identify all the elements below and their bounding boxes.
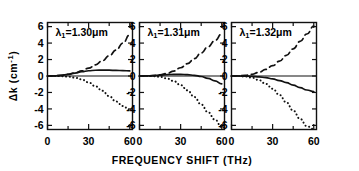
y-axis-label-text: Δk (cm-1) xyxy=(6,51,19,102)
x-tick-label: 0 xyxy=(45,135,51,147)
y-label-main: Δk (cm xyxy=(7,63,19,102)
panel-3: 6420-2-4-603060λ1=1.32μm xyxy=(218,20,320,146)
x-axis-label: FREQUENCY SHIFT (THz) xyxy=(112,154,253,166)
y-tick-label: 2 xyxy=(222,53,228,65)
y-tick-label: -2 xyxy=(126,86,135,98)
plot-canvas: 6420-2-4-603060λ1=1.30μm6420-2-4-603060λ… xyxy=(0,0,359,171)
y-tick-label: 4 xyxy=(38,37,44,49)
y-tick-label: 0 xyxy=(222,70,228,82)
y-tick-label: 6 xyxy=(38,20,44,32)
y-tick-label: -4 xyxy=(126,103,135,115)
x-tick-label: 60 xyxy=(124,135,136,147)
series-dashed xyxy=(140,34,222,76)
y-tick-label: -4 xyxy=(218,103,227,115)
y-tick-label: 6 xyxy=(130,20,136,32)
y-tick-label: 6 xyxy=(222,20,228,32)
y-tick-label: -2 xyxy=(34,86,43,98)
y-tick-label: 0 xyxy=(130,70,136,82)
x-tick-label: 30 xyxy=(267,135,279,147)
y-tick-label: 4 xyxy=(130,37,136,49)
y-tick-label: -6 xyxy=(126,119,135,131)
x-tick-label: 0 xyxy=(137,135,143,147)
panel-annotation: λ1=1.32μm xyxy=(240,26,292,41)
panel-1: 6420-2-4-603060λ1=1.30μm xyxy=(34,20,136,146)
y-tick-label: 4 xyxy=(222,37,228,49)
series-dotted xyxy=(48,76,130,110)
x-tick-label: 60 xyxy=(216,135,228,147)
panel-annotation: λ1=1.30μm xyxy=(56,26,108,41)
lambda-value: =1.31μm xyxy=(158,26,200,38)
y-tick-label: 2 xyxy=(38,53,44,65)
panel-2: 6420-2-4-603060λ1=1.31μm xyxy=(126,20,228,146)
panel-annotation: λ1=1.31μm xyxy=(148,26,200,41)
series-dotted xyxy=(232,76,314,129)
series-solid xyxy=(48,70,130,76)
y-tick-label: -2 xyxy=(218,86,227,98)
y-label-exponent: -1 xyxy=(6,55,15,63)
x-tick-label: 30 xyxy=(175,135,187,147)
figure-container: 6420-2-4-603060λ1=1.30μm6420-2-4-603060λ… xyxy=(0,0,359,171)
lambda-value: =1.30μm xyxy=(66,26,108,38)
lambda-value: =1.32μm xyxy=(250,26,292,38)
y-axis-label: Δk (cm-1) xyxy=(6,51,19,102)
y-tick-label: 2 xyxy=(130,53,136,65)
y-tick-label: -4 xyxy=(34,103,43,115)
series-dotted xyxy=(140,76,222,127)
x-tick-label: 60 xyxy=(308,135,320,147)
y-tick-label: 0 xyxy=(38,70,44,82)
y-tick-label: -6 xyxy=(218,119,227,131)
x-tick-label: 0 xyxy=(229,135,235,147)
y-label-close: ) xyxy=(7,51,19,55)
x-tick-label: 30 xyxy=(83,135,95,147)
y-tick-label: -6 xyxy=(34,119,43,131)
